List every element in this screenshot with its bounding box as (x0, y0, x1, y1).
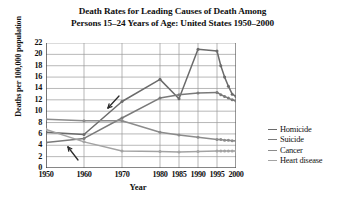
data-point (235, 139, 237, 142)
legend-label: Cancer (280, 146, 303, 155)
data-point (231, 93, 234, 96)
y-axis-tick-label: 8 (18, 118, 42, 127)
data-point (223, 139, 226, 142)
legend-item: Suicide (268, 135, 322, 146)
y-axis-tick-label: 22 (18, 38, 42, 47)
legend-color-swatch (268, 129, 277, 130)
data-point (83, 140, 86, 143)
data-point (159, 78, 162, 81)
data-point (235, 149, 237, 152)
chart-figure: Death Rates for Leading Causes of Death … (0, 0, 345, 198)
x-axis-tick-label: 1960 (71, 170, 97, 179)
data-point (197, 150, 200, 153)
y-axis-tick-label: 18 (18, 61, 42, 70)
arrow-shaft (68, 147, 78, 160)
data-point (121, 117, 124, 120)
data-point (227, 85, 230, 88)
legend-color-swatch (268, 150, 277, 151)
y-axis-tick-label: 2 (18, 152, 42, 161)
series-line (46, 129, 236, 152)
legend-label: Homicide (280, 125, 311, 134)
data-point (121, 119, 124, 122)
data-point (46, 131, 48, 134)
y-axis-tick-label: 10 (18, 106, 42, 115)
series-heart-disease (46, 128, 236, 154)
x-axis-label: Year (38, 182, 238, 192)
chart-legend: HomicideSuicideCancerHeart disease (268, 124, 322, 166)
y-axis-tick-label: 16 (18, 72, 42, 81)
y-axis-tick-label: 4 (18, 140, 42, 149)
data-point (223, 149, 226, 152)
chart-title-line2: Persons 15–24 Years of Age: United State… (0, 18, 345, 30)
series-suicide (46, 91, 236, 144)
legend-item: Homicide (268, 124, 322, 135)
data-point (231, 139, 234, 142)
data-point (121, 100, 124, 103)
data-point (227, 97, 230, 100)
legend-item: Cancer (268, 145, 322, 156)
data-point (197, 136, 200, 139)
data-point (223, 95, 226, 98)
legend-label: Suicide (280, 135, 304, 144)
data-point (46, 118, 48, 121)
data-point (231, 149, 234, 152)
plot-svg (46, 43, 236, 168)
data-point (159, 150, 162, 153)
data-point (46, 141, 48, 144)
data-point (159, 97, 162, 100)
legend-color-swatch (268, 160, 277, 161)
y-axis-tick-label: 20 (18, 49, 42, 58)
series-line (46, 49, 236, 134)
y-axis-tick-label: 6 (18, 129, 42, 138)
data-point (216, 149, 219, 152)
data-point (178, 93, 181, 96)
chart-title-line1: Death Rates for Leading Causes of Death … (79, 6, 267, 16)
plot-area (46, 43, 236, 168)
y-axis-tick-label: 14 (18, 83, 42, 92)
data-point (178, 151, 181, 154)
y-axis-tick-label: 12 (18, 95, 42, 104)
data-point (197, 48, 200, 51)
data-point (83, 119, 86, 122)
data-point (231, 98, 234, 101)
data-point (178, 97, 181, 100)
x-axis-tick-label: 1950 (33, 170, 59, 179)
arrow-heart-disease-1960 (68, 147, 78, 160)
data-point (219, 64, 222, 67)
legend-label: Heart disease (280, 156, 322, 165)
x-axis-tick-label: 1970 (109, 170, 135, 179)
x-axis-tick-label: 2000 (223, 170, 249, 179)
grid-lines (46, 43, 236, 168)
data-point (178, 134, 181, 137)
data-point (223, 76, 226, 79)
data-point (159, 131, 162, 134)
data-point (227, 149, 230, 152)
axes (46, 43, 236, 168)
legend-item: Heart disease (268, 156, 322, 167)
data-point (216, 49, 219, 52)
data-point (197, 92, 200, 95)
data-point (83, 133, 86, 136)
data-point (227, 139, 230, 142)
legend-color-swatch (268, 139, 277, 140)
data-point (219, 93, 222, 96)
chart-title: Death Rates for Leading Causes of Death … (0, 6, 345, 29)
annotation-arrows (68, 96, 119, 160)
data-point (216, 91, 219, 94)
data-point (83, 137, 86, 140)
arrow-head (68, 147, 69, 151)
data-point (219, 149, 222, 152)
data-point (121, 149, 124, 152)
data-point (219, 138, 222, 141)
data-point (216, 138, 219, 141)
